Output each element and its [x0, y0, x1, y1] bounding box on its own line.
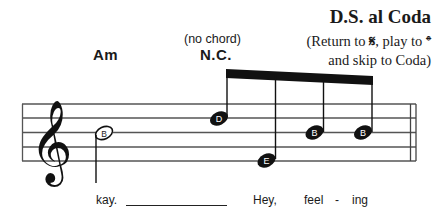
svg-text:B: B [360, 128, 366, 138]
treble-clef-icon: 𝄞 [30, 99, 73, 187]
lyric-hyphen: - [335, 193, 339, 207]
beamed-eighth-group: D E B B [208, 69, 375, 170]
note-eighth-e: E [255, 151, 278, 171]
lyric-ing: ing [352, 193, 368, 207]
svg-text:B: B [311, 128, 317, 138]
note-eighth-b-2: B [352, 123, 375, 143]
lyric-kay: kay. [96, 193, 117, 207]
beam [226, 69, 373, 85]
svg-text:D: D [216, 114, 223, 124]
svg-text:B: B [101, 129, 107, 139]
note-eighth-b-1: B [303, 123, 326, 143]
lyric-hey: Hey, [253, 193, 277, 207]
lyric-extender-line [126, 205, 227, 206]
music-staff: 𝄞 B D E B B [0, 0, 445, 221]
svg-text:E: E [263, 156, 269, 166]
lyric-feel: feel [304, 193, 323, 207]
note-half-b: B [93, 124, 114, 183]
